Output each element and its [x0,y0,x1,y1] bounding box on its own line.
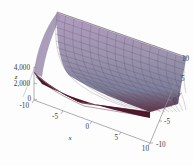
plot-canvas: 4,000 2,000 0 z -10 -5 0 5 10 x -10 -5 0… [0,0,193,165]
z-tick-4000: 4,000 [14,64,31,72]
z-axis-ticklabels: 4,000 2,000 0 z [14,64,32,103]
surface-plot-figure: 4,000 2,000 0 z -10 -5 0 5 10 x -10 -5 0… [0,0,193,165]
y-tick-minus10: -10 [156,141,166,149]
surface-mesh [34,12,186,118]
y-tick-5: 5 [181,75,185,83]
z-tick-2000: 2,000 [14,80,31,88]
x-tick-10: 10 [142,145,150,153]
y-axis-label: y [177,90,182,98]
x-tick-minus5: -5 [52,113,58,121]
y-tick-10: 10 [182,55,190,63]
y-tick-0: 0 [173,97,177,105]
z-axis-label: z [14,73,18,81]
x-tick-5: 5 [114,134,118,142]
x-tick-minus10: -10 [19,102,29,110]
x-tick-0: 0 [85,123,89,131]
x-axis-label: x [67,134,72,142]
y-tick-minus5: -5 [164,118,170,126]
